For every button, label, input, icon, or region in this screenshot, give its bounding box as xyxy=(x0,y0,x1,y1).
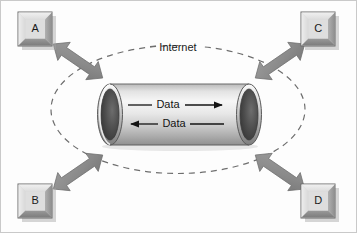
node-b[interactable]: B xyxy=(18,184,56,222)
tunnel-left-opening xyxy=(101,89,119,140)
node-c[interactable]: C xyxy=(301,12,339,50)
node-c-label: C xyxy=(314,22,322,34)
node-d-label: D xyxy=(314,194,322,206)
node-b-label: B xyxy=(32,194,39,206)
diagram-canvas: Internet xyxy=(0,0,357,233)
data-tunnel[interactable]: Data Data xyxy=(98,84,262,151)
data-flow-left-label: Data xyxy=(162,117,186,129)
node-a[interactable]: A xyxy=(18,12,56,50)
node-a-label: A xyxy=(32,22,40,34)
internet-label-tick xyxy=(150,46,156,47)
network-diagram: Internet xyxy=(0,0,357,233)
node-d[interactable]: D xyxy=(301,184,339,222)
tunnel-right-opening xyxy=(240,89,258,140)
data-flow-right-label: Data xyxy=(156,98,180,110)
tunnel-body xyxy=(110,84,249,145)
internet-label: Internet xyxy=(159,41,196,53)
